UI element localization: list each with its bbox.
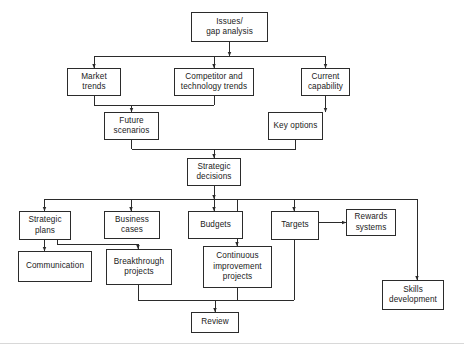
node-market-trends[interactable]: Market trends <box>67 68 121 96</box>
node-business-cases[interactable]: Business cases <box>104 211 160 239</box>
node-label: Competitor and technology trends <box>181 72 247 93</box>
node-label: Review <box>201 317 228 328</box>
node-label: Budgets <box>200 220 231 231</box>
node-communication[interactable]: Communication <box>18 251 92 282</box>
node-rewards-systems[interactable]: Rewards systems <box>346 209 396 236</box>
node-key-options[interactable]: Key options <box>268 112 323 140</box>
node-label: Business cases <box>115 215 149 236</box>
node-label: Continuous improvement projects <box>213 251 261 283</box>
node-label: Targets <box>281 220 309 231</box>
node-continuous-improvement-projects[interactable]: Continuous improvement projects <box>203 246 272 288</box>
node-skills-development[interactable]: Skills development <box>382 280 444 310</box>
node-strategic-plans[interactable]: Strategic plans <box>19 211 71 240</box>
node-issues-gap-analysis[interactable]: Issues/ gap analysis <box>191 12 268 42</box>
node-label: Skills development <box>389 285 437 306</box>
node-strategic-decisions[interactable]: Strategic decisions <box>187 158 241 186</box>
node-label: Issues/ gap analysis <box>206 17 253 38</box>
node-budgets[interactable]: Budgets <box>188 211 243 239</box>
node-current-capability[interactable]: Current capability <box>301 68 350 96</box>
node-label: Strategic decisions <box>196 162 231 183</box>
node-label: Market trends <box>81 72 107 93</box>
node-label: Communication <box>26 261 84 272</box>
node-review[interactable]: Review <box>191 312 239 333</box>
node-label: Rewards systems <box>354 212 387 233</box>
node-label: Strategic plans <box>28 215 61 236</box>
node-label: Future scenarios <box>114 116 150 137</box>
edge-plans-to-breakthrough <box>57 240 138 249</box>
page-divider-rule <box>0 343 464 344</box>
node-breakthrough-projects[interactable]: Breakthrough projects <box>106 249 172 285</box>
node-competitor-and-technology-trends[interactable]: Competitor and technology trends <box>174 68 254 96</box>
node-label: Current capability <box>308 72 343 93</box>
node-future-scenarios[interactable]: Future scenarios <box>104 112 159 140</box>
node-label: Key options <box>274 121 318 132</box>
flowchart-canvas: Issues/ gap analysis Market trends Compe… <box>0 0 464 347</box>
node-targets[interactable]: Targets <box>271 211 319 240</box>
node-label: Breakthrough projects <box>114 257 164 278</box>
